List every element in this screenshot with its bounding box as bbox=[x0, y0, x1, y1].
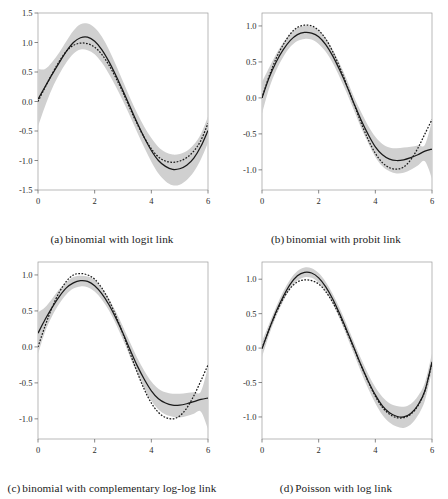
plot-c: 0246-1.0-0.50.00.51.0 bbox=[0, 249, 224, 471]
panel-b: 0246-1.0-0.50.00.51.0 (b)binomial with p… bbox=[224, 0, 448, 249]
caption-d: (d)Poisson with log link bbox=[224, 482, 448, 494]
chart-svg-a: 0246-1.5-1.0-0.50.00.51.01.5 bbox=[0, 0, 224, 222]
y-tick-label: 1.0 bbox=[22, 270, 33, 280]
x-tick-label: 0 bbox=[36, 196, 40, 206]
x-tick-label: 6 bbox=[430, 196, 434, 206]
caption-tag-c: (c) bbox=[8, 482, 21, 494]
y-tick-label: -0.5 bbox=[243, 378, 256, 388]
chart-svg-b: 0246-1.0-0.50.00.51.0 bbox=[224, 0, 448, 222]
x-tick-label: 6 bbox=[206, 196, 210, 206]
x-tick-label: 4 bbox=[373, 445, 378, 455]
caption-text-d: Poisson with log link bbox=[295, 482, 392, 494]
y-tick-label: -0.5 bbox=[243, 129, 256, 139]
y-tick-label: -1.0 bbox=[243, 165, 256, 175]
estimate-curve bbox=[262, 32, 432, 160]
caption-text-a: binomial with logit link bbox=[65, 233, 173, 245]
y-tick-label: 0.5 bbox=[246, 57, 257, 67]
caption-a: (a)binomial with logit link bbox=[0, 233, 224, 245]
y-tick-label: 1.0 bbox=[246, 274, 257, 284]
caption-c: (c)binomial with complementary log-log l… bbox=[0, 482, 224, 494]
x-tick-label: 6 bbox=[430, 445, 434, 455]
y-tick-label: -1.0 bbox=[243, 412, 256, 422]
y-tick-label: 1.0 bbox=[22, 38, 33, 48]
x-tick-label: 2 bbox=[317, 445, 321, 455]
confidence-band bbox=[38, 276, 208, 429]
y-tick-label: 0.0 bbox=[246, 93, 257, 103]
series-group bbox=[262, 267, 432, 428]
y-tick-label: 0.0 bbox=[246, 343, 257, 353]
confidence-band bbox=[262, 26, 432, 179]
x-tick-label: 2 bbox=[93, 196, 97, 206]
panel-d: 0246-1.0-0.50.00.51.0 (d)Poisson with lo… bbox=[224, 249, 448, 498]
chart-svg-d: 0246-1.0-0.50.00.51.0 bbox=[224, 249, 448, 471]
y-tick-label: 0.0 bbox=[22, 342, 33, 352]
y-tick-label: 0.5 bbox=[22, 306, 33, 316]
caption-text-b: binomial with probit link bbox=[286, 233, 401, 245]
estimate-curve bbox=[262, 272, 432, 417]
y-tick-label: 1.5 bbox=[22, 8, 33, 18]
confidence-band bbox=[38, 23, 208, 185]
x-tick-label: 4 bbox=[149, 196, 154, 206]
x-tick-label: 0 bbox=[260, 196, 264, 206]
y-tick-label: -1.0 bbox=[19, 414, 32, 424]
caption-b: (b)binomial with probit link bbox=[224, 233, 448, 245]
x-tick-label: 0 bbox=[36, 445, 40, 455]
y-tick-label: 0.0 bbox=[22, 97, 33, 107]
series-group bbox=[262, 25, 432, 178]
y-tick-label: 0.5 bbox=[246, 309, 257, 319]
estimate-curve bbox=[38, 281, 208, 406]
caption-text-c: binomial with complementary log-log link bbox=[22, 482, 216, 494]
y-tick-label: -0.5 bbox=[19, 378, 32, 388]
plot-b: 0246-1.0-0.50.00.51.0 bbox=[224, 0, 448, 222]
x-tick-label: 0 bbox=[260, 445, 264, 455]
plot-a: 0246-1.5-1.0-0.50.00.51.01.5 bbox=[0, 0, 224, 222]
caption-tag-d: (d) bbox=[280, 482, 293, 494]
plot-d: 0246-1.0-0.50.00.51.0 bbox=[224, 249, 448, 471]
x-tick-label: 2 bbox=[317, 196, 321, 206]
figure-grid: 0246-1.5-1.0-0.50.00.51.01.5 (a)binomial… bbox=[0, 0, 448, 499]
chart-svg-c: 0246-1.0-0.50.00.51.0 bbox=[0, 249, 224, 471]
series-group bbox=[38, 274, 208, 429]
panel-a: 0246-1.5-1.0-0.50.00.51.01.5 (a)binomial… bbox=[0, 0, 224, 249]
y-tick-label: -0.5 bbox=[19, 126, 32, 136]
y-tick-label: -1.5 bbox=[19, 185, 32, 195]
y-tick-label: -1.0 bbox=[19, 156, 32, 166]
x-tick-label: 2 bbox=[93, 445, 97, 455]
caption-tag-a: (a) bbox=[50, 233, 63, 245]
series-group bbox=[38, 23, 208, 185]
y-tick-label: 0.5 bbox=[22, 67, 33, 77]
estimate-curve bbox=[38, 37, 208, 170]
x-tick-label: 4 bbox=[149, 445, 154, 455]
y-tick-label: 1.0 bbox=[246, 21, 257, 31]
x-tick-label: 6 bbox=[206, 445, 210, 455]
panel-c: 0246-1.0-0.50.00.51.0 (c)binomial with c… bbox=[0, 249, 224, 498]
x-tick-label: 4 bbox=[373, 196, 378, 206]
caption-tag-b: (b) bbox=[271, 233, 284, 245]
true-function-curve bbox=[262, 280, 432, 418]
